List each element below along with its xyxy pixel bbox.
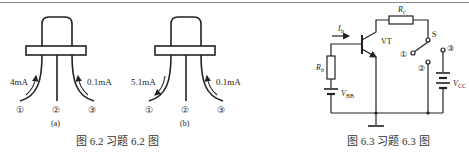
switch-label: S: [432, 30, 436, 39]
collector-resistor-label: Rc: [397, 5, 406, 15]
pin-label-2-a: ②: [52, 105, 60, 115]
transistor-label: VT: [381, 37, 392, 46]
pin-label-2-b: ②: [181, 105, 189, 115]
vbb-label: VBB: [341, 89, 354, 99]
subfigure-label-b: (b): [180, 119, 190, 128]
pin-label-3-b: ③: [217, 105, 225, 115]
caption-fig-6-2: 图 6.2 习题 6.2 图: [76, 135, 159, 147]
switch-pos-1: ①: [400, 50, 407, 59]
current-label-1-a: 4mA: [10, 77, 29, 87]
base-resistor-label: Rb: [315, 63, 324, 73]
junction-dot: [426, 111, 429, 114]
pin-label-3-a: ③: [88, 105, 96, 115]
pin-label-1-b: ①: [145, 105, 153, 115]
current-label-1-b: 5.1mA: [131, 77, 156, 87]
pin-label-1-a: ①: [16, 105, 24, 115]
transistor-package-b: [149, 17, 223, 101]
caption-fig-6-3: 图 6.3 习题 6.3 图: [347, 135, 430, 147]
switch-pos-3: ③: [447, 44, 454, 53]
transistor-package-a: [20, 17, 94, 101]
vcc-label: VCC: [453, 79, 466, 89]
junction-dot: [374, 111, 377, 114]
switch-pos-2: ②: [418, 64, 425, 73]
current-label-3-a: 0.1mA: [87, 77, 112, 87]
figure-canvas: 4mA 0.1mA ① ② ③ (a) 5.1mA 0.1mA ① ② ③ (b…: [0, 0, 469, 162]
subfigure-label-a: (a): [51, 119, 60, 128]
current-label-3-b: 0.1mA: [216, 77, 241, 87]
base-current-label: Ib: [337, 24, 344, 34]
